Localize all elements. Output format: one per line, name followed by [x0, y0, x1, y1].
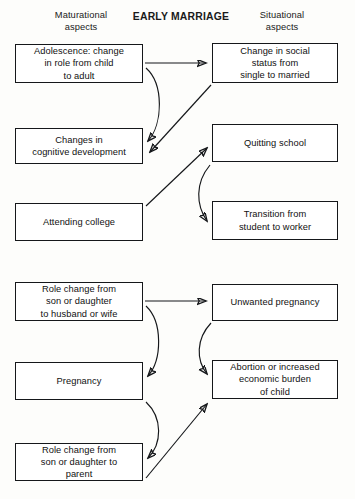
node-transition-worker: Transition from student to worker [212, 201, 338, 240]
arrow-unwanted-pregnancy-to-abortion-burden [199, 323, 211, 374]
node-cognitive: Changes in cognitive development [15, 128, 143, 164]
column-heading-situational: Situational aspects [232, 10, 332, 33]
diagram-title: EARLY MARRIAGE [120, 11, 242, 23]
node-adolescence: Adolescence: change in role from child t… [15, 44, 143, 83]
node-pregnancy: Pregnancy [15, 362, 143, 400]
arrow-adolescence-to-cognitive [146, 68, 159, 141]
arrow-social-status-to-cognitive [150, 85, 211, 152]
diagram-canvas: Maturational aspects EARLY MARRIAGE Situ… [0, 0, 355, 499]
node-abortion-burden: Abortion or increased economic burden of… [212, 360, 338, 399]
arrow-role-parent-to-abortion-burden [146, 404, 207, 478]
arrow-role-spouse-to-pregnancy [146, 306, 159, 376]
arrow-pregnancy-to-role-parent [146, 402, 159, 458]
arrow-quitting-school-to-transition-worker [199, 165, 210, 221]
arrow-attending-college-to-quitting-school [146, 148, 207, 206]
node-social-status: Change in social status from single to m… [212, 43, 338, 83]
node-attending-college: Attending college [15, 203, 143, 241]
node-quitting-school: Quitting school [212, 124, 338, 162]
node-unwanted-pregnancy: Unwanted pregnancy [212, 284, 338, 321]
node-role-spouse: Role change from son or daughter to husb… [15, 282, 143, 321]
node-role-parent: Role change from son or daughter to pare… [15, 443, 143, 481]
